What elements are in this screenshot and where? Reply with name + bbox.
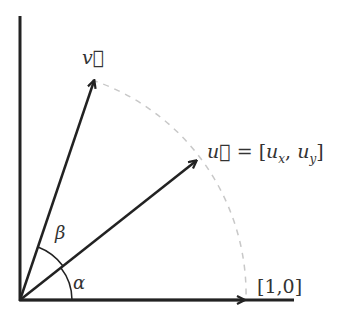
uy-text: u: [297, 140, 309, 162]
u-label-text: u⃗: [207, 140, 231, 162]
comma: ,: [285, 140, 297, 162]
label-unit-vector: [1,0]: [257, 275, 302, 297]
beta-angle-arc: [38, 247, 63, 266]
vector-u-arrow: [20, 161, 196, 300]
label-alpha: α: [73, 272, 85, 293]
equals-bracket: = [: [231, 140, 266, 162]
label-u-equation: u⃗ = [ux, uy]: [207, 140, 324, 166]
alpha-angle-arc: [61, 268, 72, 300]
vector-v-arrow: [20, 81, 94, 300]
label-v: v⃗: [82, 46, 104, 68]
close-bracket: ]: [316, 140, 323, 162]
v-label-text: v⃗: [82, 46, 104, 68]
unit-circle-arc: [92, 80, 246, 300]
label-beta: β: [55, 222, 65, 243]
ux-text: u: [266, 140, 278, 162]
